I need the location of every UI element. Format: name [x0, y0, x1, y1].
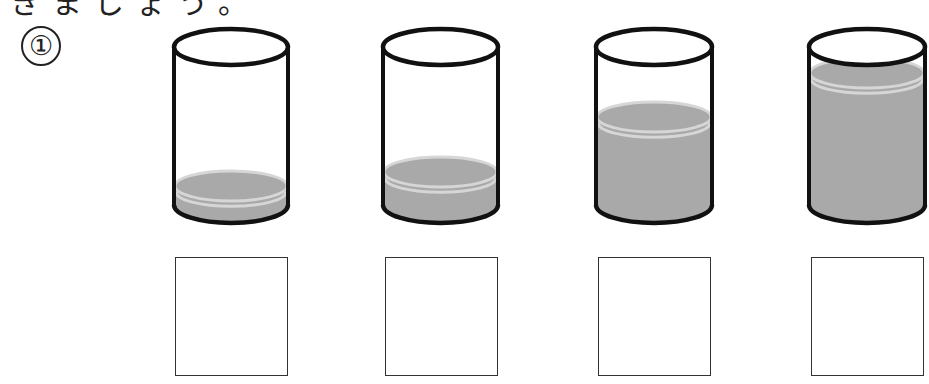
question-number: ① [21, 26, 61, 66]
beaker-2 [379, 20, 502, 232]
instruction-text-cropped: きましょう。 [10, 0, 260, 22]
answer-box-2[interactable] [385, 257, 498, 376]
beaker-1 [170, 20, 292, 232]
answer-box-3[interactable] [598, 257, 711, 376]
answer-box-4[interactable] [811, 257, 924, 376]
answer-box-1[interactable] [175, 257, 288, 376]
beaker-3 [592, 20, 716, 232]
beaker-4 [805, 20, 929, 232]
